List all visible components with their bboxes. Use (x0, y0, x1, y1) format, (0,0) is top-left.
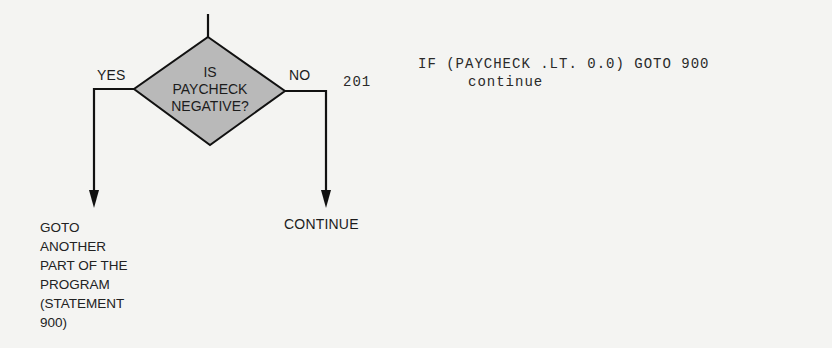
yes-outcome-line-3: PART OF THE (40, 256, 128, 275)
code-line-2-label: 201 (343, 74, 371, 90)
yes-outcome-line-5: (STATEMENT (40, 294, 128, 313)
decision-line-1: IS (150, 64, 270, 81)
yes-label: YES (97, 67, 126, 83)
yes-outcome-line-6: 900) (40, 313, 128, 332)
no-arrow-icon (321, 190, 331, 208)
yes-arrow-icon (89, 190, 99, 208)
decision-text: IS PAYCHECK NEGATIVE? (150, 64, 270, 115)
yes-branch-line (94, 89, 134, 192)
no-branch-line (285, 91, 326, 192)
yes-outcome-line-1: GOTO (40, 218, 128, 237)
yes-outcome-text: GOTO ANOTHER PART OF THE PROGRAM (STATEM… (40, 218, 128, 332)
no-label: NO (289, 67, 310, 83)
code-line-1: IF (PAYCHECK .LT. 0.0) GOTO 900 (418, 56, 709, 72)
no-outcome-text: CONTINUE (284, 216, 359, 232)
code-line-2-statement: continue (468, 74, 543, 90)
yes-outcome-line-2: ANOTHER (40, 237, 128, 256)
decision-line-2: PAYCHECK (150, 81, 270, 98)
yes-outcome-line-4: PROGRAM (40, 275, 128, 294)
decision-line-3: NEGATIVE? (150, 98, 270, 115)
